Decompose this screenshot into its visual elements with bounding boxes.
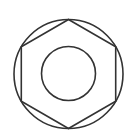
- hex-nut-figure: [0, 0, 136, 140]
- hexagon-outline: [21, 20, 115, 129]
- outer-circle: [14, 20, 123, 129]
- inner-circle-bore: [42, 47, 96, 101]
- hex-nut-icon: [0, 0, 136, 140]
